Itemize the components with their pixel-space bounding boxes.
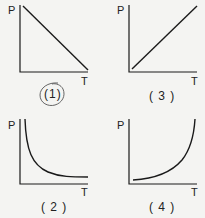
graph-2-x-label: T — [81, 187, 88, 198]
graph-3-caption: ( 3 ) — [149, 90, 175, 102]
graph-3-x-label: T — [191, 76, 198, 87]
graph-2-plot — [20, 119, 88, 184]
graph-1-line — [23, 6, 88, 70]
graph-2-y-label: P — [8, 120, 15, 131]
graph-4-curve — [133, 119, 195, 180]
graph-4-plot — [129, 119, 197, 184]
diagram-canvas — [0, 0, 205, 218]
graph-1-x-label: T — [81, 76, 88, 87]
graph-3-y-label: P — [117, 5, 124, 16]
graph-4-x-label: T — [191, 187, 198, 198]
graph-4-caption: ( 4 ) — [149, 201, 175, 213]
graph-4-y-label: P — [117, 120, 124, 131]
graph-1-axes — [20, 5, 88, 72]
graph-3-plot — [129, 5, 197, 72]
graph-3-line — [132, 6, 197, 69]
graph-1-caption: (1) — [44, 88, 62, 100]
graph-2-curve — [25, 119, 88, 177]
graph-1-plot — [20, 5, 88, 72]
graph-1-y-label: P — [8, 5, 15, 16]
graph-2-caption: ( 2 ) — [41, 201, 67, 213]
